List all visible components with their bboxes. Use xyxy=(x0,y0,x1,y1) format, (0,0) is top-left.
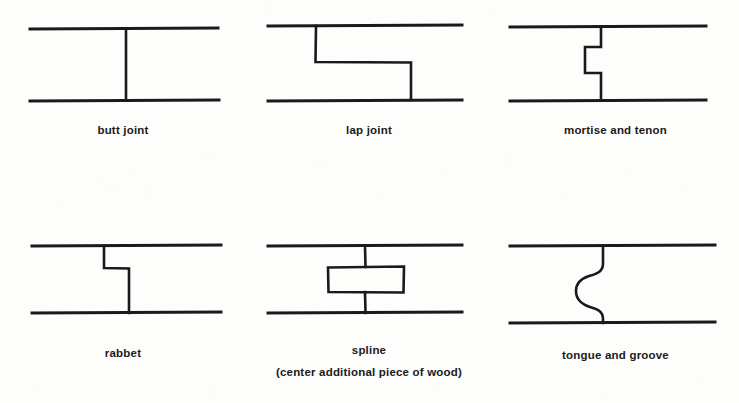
caption-lap-joint: lap joint xyxy=(246,124,492,136)
mortise-and-tenon-drawing xyxy=(492,0,739,130)
figure-tongue-and-groove: tongue and groove xyxy=(492,220,739,390)
figure-rabbet: rabbet xyxy=(0,220,246,390)
diagram-sheet: butt joint lap joint mortise and tenon xyxy=(0,0,739,403)
caption-spline: spline xyxy=(246,344,492,356)
caption-rabbet: rabbet xyxy=(0,347,246,359)
rabbet-drawing xyxy=(0,220,246,335)
caption-butt-joint: butt joint xyxy=(0,124,246,136)
butt-joint-drawing xyxy=(0,0,246,130)
spline-drawing xyxy=(246,220,492,335)
figure-spline: spline (center additional piece of wood) xyxy=(246,220,492,400)
figure-butt-joint: butt joint xyxy=(0,0,246,160)
caption-mortise-and-tenon: mortise and tenon xyxy=(492,124,739,136)
figure-mortise-and-tenon: mortise and tenon xyxy=(492,0,739,160)
lap-joint-drawing xyxy=(246,0,492,130)
caption-tongue-and-groove: tongue and groove xyxy=(492,349,739,361)
tongue-and-groove-drawing xyxy=(492,220,739,335)
caption-spline-sublabel: (center additional piece of wood) xyxy=(246,366,492,378)
figure-lap-joint: lap joint xyxy=(246,0,492,160)
